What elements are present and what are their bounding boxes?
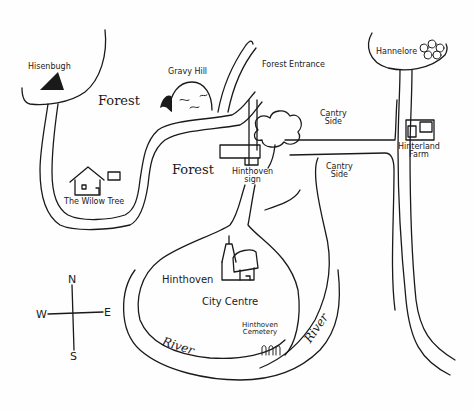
road-west-outer xyxy=(40,102,262,230)
label-forest-entrance: Forest Entrance xyxy=(262,60,325,70)
label-city-centre: City Centre xyxy=(202,297,258,307)
house-icon xyxy=(70,167,120,195)
label-hannelore: Hannelore xyxy=(376,48,417,56)
flowers-icon xyxy=(420,40,444,59)
label-hisenbugh: Hisenbugh xyxy=(28,63,71,71)
label-hinthoven: Hinthoven xyxy=(162,275,213,285)
label-forest-north: Forest xyxy=(98,94,140,107)
label-countryside-north: Cantry Side xyxy=(320,110,347,126)
label-hinterland-farm: Hinterland Farm xyxy=(398,143,440,159)
compass-east: E xyxy=(104,307,111,318)
castle-icon xyxy=(222,236,258,280)
sign-connector xyxy=(265,190,300,210)
label-gravy-hill: Gravy Hill xyxy=(168,68,207,76)
hand-drawn-map: Hisenbugh Gravy Hill Forest Entrance Han… xyxy=(0,0,474,411)
compass-north: N xyxy=(68,274,76,285)
label-willow-tree: The Wilow Tree xyxy=(64,198,124,206)
label-forest-central: Forest xyxy=(172,163,214,176)
mountain-icon xyxy=(40,72,64,90)
gravestones-icon xyxy=(262,346,280,355)
hinthoven-sign-post xyxy=(245,158,258,165)
road-north-right xyxy=(228,48,256,112)
compass-west: W xyxy=(36,309,47,320)
river-outer-edge xyxy=(124,270,340,380)
tree-canopy xyxy=(255,111,302,147)
road-east-right xyxy=(410,70,455,360)
tree-trunk xyxy=(268,145,275,168)
gravy-hill-shadow xyxy=(160,96,172,112)
label-countryside-south: Cantry Side xyxy=(326,163,353,179)
hinthoven-sign-board xyxy=(220,145,260,158)
label-hinthoven-cemetery: Hinthoven Cemetery xyxy=(242,322,278,336)
compass-icon xyxy=(48,285,103,350)
compass-south: S xyxy=(70,351,77,362)
label-hinthoven-sign: Hinthoven sign xyxy=(232,168,273,184)
